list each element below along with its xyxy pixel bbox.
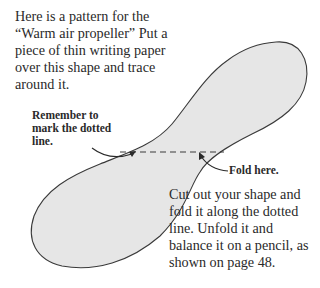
intro-instructions: Here is a pattern for the “Warm air prop… (15, 8, 185, 93)
fold-here-callout: Fold here. (229, 164, 279, 177)
remember-callout: Remember to mark the dotted line. (32, 109, 122, 148)
cut-out-instructions: Cut out your shape and fold it along the… (169, 186, 319, 271)
